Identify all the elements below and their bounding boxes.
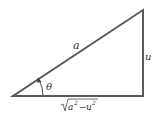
triangle-diagram: a u θ a 2 − u 2 xyxy=(0,0,161,118)
exponent-u: 2 xyxy=(91,99,96,106)
angle-arc xyxy=(39,80,43,96)
opposite-label: u xyxy=(145,51,151,62)
radicand-a: a xyxy=(68,102,73,112)
adjacent-label: a 2 − u 2 xyxy=(61,99,98,112)
exponent-a: 2 xyxy=(73,99,78,106)
right-triangle xyxy=(13,10,143,96)
angle-label: θ xyxy=(46,81,52,92)
hypotenuse-label: a xyxy=(73,39,80,52)
